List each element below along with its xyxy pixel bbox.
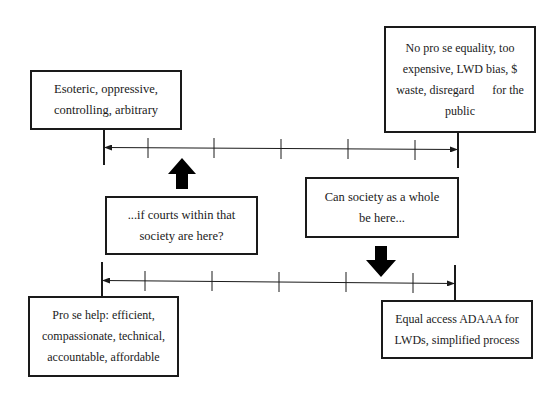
label-box-equal-access: Equal access ADAAA for LWDs, simplified … — [381, 300, 533, 359]
top-scale — [104, 129, 458, 168]
label-line: Esoteric, oppressive, — [54, 79, 158, 100]
up-arrow-icon — [168, 158, 196, 189]
bottom-scale — [102, 262, 455, 300]
label-line: Equal access ADAAA for — [395, 309, 520, 330]
label-line: accountable, affordable — [42, 347, 165, 368]
label-box-esoteric: Esoteric, oppressive, controlling, arbit… — [30, 70, 182, 130]
label-line: be here... — [325, 208, 440, 229]
label-line: waste, disregard for the — [396, 80, 524, 101]
label-box-pro-se-help: Pro se help: efficient, compassionate, t… — [28, 296, 179, 377]
label-line: society are here? — [128, 226, 236, 247]
label-line: Can society as a whole — [325, 187, 440, 208]
question-box-society: Can society as a whole be here... — [305, 177, 459, 238]
label-box-no-pro-se-equality: No pro se equality, too expensive, LWD b… — [384, 26, 536, 133]
label-line: ...if courts within that — [128, 205, 236, 226]
label-line: controlling, arbitrary — [54, 100, 158, 121]
down-arrow-icon — [366, 246, 396, 277]
question-box-courts: ...if courts within that society are her… — [105, 196, 258, 255]
label-line: LWDs, simplified process — [395, 330, 520, 351]
label-line: public — [396, 101, 524, 122]
label-line: compassionate, technical, — [42, 326, 165, 347]
label-line: Pro se help: efficient, — [42, 305, 165, 326]
label-line: expensive, LWD bias, $ — [396, 59, 524, 80]
label-line: No pro se equality, too — [396, 38, 524, 59]
